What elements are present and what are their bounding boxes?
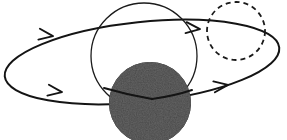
diagram-canvas — [0, 0, 287, 140]
orbital-diagram-figure — [0, 0, 287, 140]
